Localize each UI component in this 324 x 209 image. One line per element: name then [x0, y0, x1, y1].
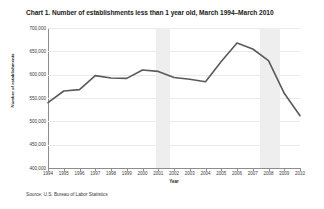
y-axis-tick-label: 700,000 — [16, 26, 46, 31]
x-axis-tick-mark — [158, 168, 159, 171]
x-axis-tick-mark — [64, 168, 65, 171]
page-title: Chart 1. Number of establishments less t… — [26, 8, 318, 17]
data-series-line — [48, 28, 300, 168]
x-axis-tick-mark — [269, 168, 270, 171]
x-axis-tick-mark — [190, 168, 191, 171]
y-axis-tick-label: 550,000 — [16, 96, 46, 101]
x-axis-tick-mark — [48, 168, 49, 171]
x-axis-tick-mark — [300, 168, 301, 171]
y-axis-title: Number of establishments — [10, 42, 15, 120]
x-axis-tick-mark — [253, 168, 254, 171]
x-axis-tick-label: 2010 — [289, 171, 311, 177]
y-axis-tick-label: 400,000 — [16, 166, 46, 171]
y-axis-tick-label: 650,000 — [16, 49, 46, 54]
x-axis-tick-mark — [143, 168, 144, 171]
x-axis-tick-mark — [237, 168, 238, 171]
y-axis-tick-label: 450,000 — [16, 142, 46, 147]
y-axis-tick-label: 600,000 — [16, 72, 46, 77]
plot-area — [48, 28, 300, 168]
x-axis-title: Year — [48, 179, 300, 184]
x-axis-tick-mark — [111, 168, 112, 171]
y-axis-tick-group: 700,000650,000600,000550,000500,000450,0… — [14, 0, 46, 209]
x-axis-tick-mark — [80, 168, 81, 171]
x-axis-tick-mark — [127, 168, 128, 171]
x-axis-tick-mark — [284, 168, 285, 171]
chart-card: Chart 1. Number of establishments less t… — [0, 0, 324, 209]
y-axis-tick-label: 500,000 — [16, 119, 46, 124]
x-axis-tick-mark — [221, 168, 222, 171]
x-axis-tick-mark — [206, 168, 207, 171]
source-note: Source: U.S. Bureau of Labor Statistics — [26, 192, 108, 197]
x-axis-tick-mark — [95, 168, 96, 171]
x-axis-tick-mark — [174, 168, 175, 171]
